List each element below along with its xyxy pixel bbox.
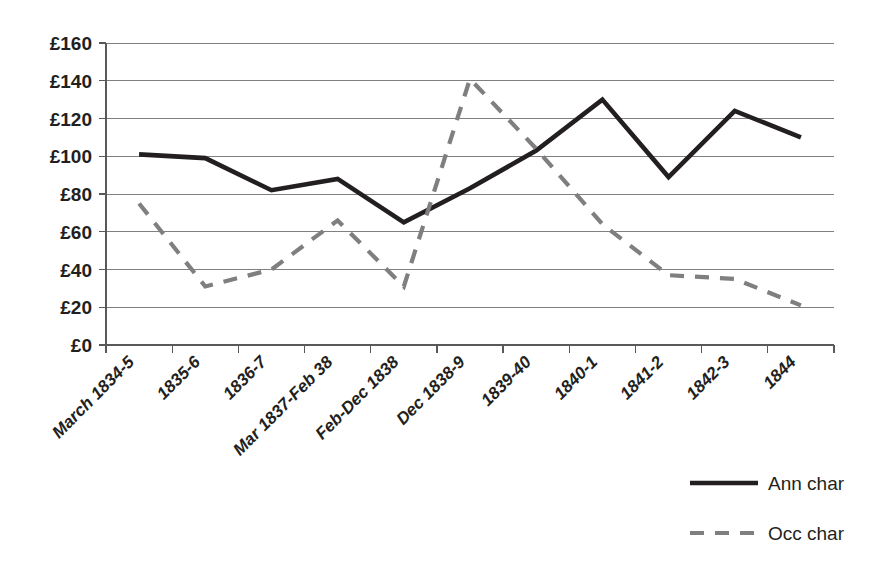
y-tick-label: £120 [50, 109, 92, 130]
chart-legend: Ann charOcc char [690, 473, 845, 544]
y-tick-label: £160 [50, 33, 92, 54]
legend-label-ann-char: Ann char [768, 473, 845, 494]
series-line-occ-char [139, 79, 801, 305]
y-axis-labels: £0£20£40£60£80£100£120£140£160 [50, 33, 92, 356]
gridlines [106, 43, 834, 345]
x-axis-ticks [106, 345, 834, 353]
y-tick-label: £40 [60, 260, 92, 281]
x-tick-label: March 1834-5 [48, 352, 138, 442]
line-chart: £0£20£40£60£80£100£120£140£160 March 183… [0, 0, 879, 570]
x-tick-label: 1835-6 [153, 352, 204, 403]
x-tick-label: 1844 [760, 352, 801, 393]
x-tick-label: 1842-3 [683, 352, 734, 403]
y-axis-ticks [99, 43, 106, 345]
data-series [139, 79, 801, 305]
x-tick-label: Dec 1838-9 [393, 352, 470, 429]
chart-container: £0£20£40£60£80£100£120£140£160 March 183… [0, 0, 879, 570]
y-tick-label: £20 [60, 297, 92, 318]
y-tick-label: £100 [50, 146, 92, 167]
x-tick-label: 1836-7 [219, 351, 271, 403]
y-tick-label: £80 [60, 184, 92, 205]
legend-label-occ-char: Occ char [768, 523, 845, 544]
x-tick-label: 1840-1 [550, 352, 601, 403]
x-axis-labels: March 1834-51835-61836-7Mar 1837-Feb 38F… [48, 351, 800, 459]
x-tick-label: 1839-40 [477, 352, 535, 410]
y-tick-label: £140 [50, 71, 92, 92]
x-tick-label: 1841-2 [617, 352, 668, 403]
y-tick-label: £60 [60, 222, 92, 243]
y-tick-label: £0 [71, 335, 92, 356]
